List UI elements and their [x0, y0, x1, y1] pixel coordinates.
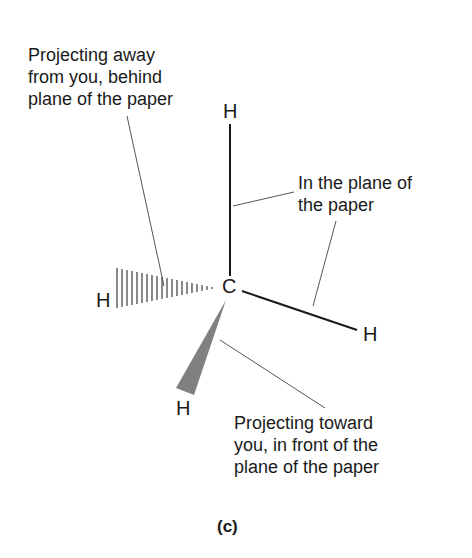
leader-in-plane-right [313, 221, 336, 306]
label-projecting-away: Projecting away from you, behind plane o… [28, 44, 173, 110]
label-line: you, in front of the [234, 434, 379, 456]
atom-c-center: C [222, 276, 236, 296]
label-line: plane of the paper [234, 456, 379, 478]
wedge-bond [176, 300, 226, 395]
leader-toward [220, 340, 325, 408]
atom-h-bottom: H [176, 398, 190, 418]
atom-h-top: H [223, 101, 237, 121]
label-line: Projecting away [28, 44, 173, 66]
figure-caption: (c) [217, 517, 238, 537]
leader-in-plane-vertical [233, 192, 294, 206]
methane-wedge-diagram: Projecting away from you, behind plane o… [0, 0, 472, 558]
atom-h-left: H [96, 290, 110, 310]
label-line: Projecting toward [234, 412, 379, 434]
label-line: plane of the paper [28, 88, 173, 110]
leader-away [127, 116, 164, 286]
bond-right-h [242, 291, 357, 330]
hashed-bond [117, 268, 212, 308]
label-in-plane: In the plane of the paper [298, 172, 412, 216]
label-line: In the plane of [298, 172, 412, 194]
label-line: from you, behind [28, 66, 173, 88]
label-line: the paper [298, 194, 412, 216]
label-projecting-toward: Projecting toward you, in front of the p… [234, 412, 379, 478]
atom-h-right: H [363, 324, 377, 344]
